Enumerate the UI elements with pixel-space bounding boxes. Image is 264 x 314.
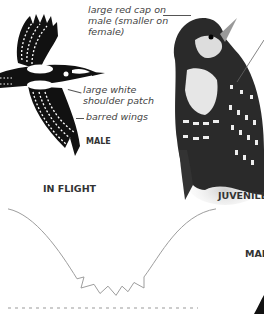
label-male-small: MALE [86, 137, 111, 146]
juvenile-woodpecker-photo [165, 10, 264, 205]
leader-line-barred [76, 118, 84, 119]
annotation-barred-wings: barred wings [86, 111, 148, 122]
caption-in-flight: IN FLIGHT [43, 183, 96, 194]
annotation-red-cap: large red cap on male (smaller on female… [88, 4, 168, 37]
annotation-shoulder-patch: large white shoulder patch [83, 84, 154, 106]
caption-male-cut: MAL [245, 248, 264, 259]
partial-bird-silhouette [254, 295, 264, 314]
flight-path-diagram [0, 200, 230, 300]
faint-text-line [8, 307, 198, 309]
